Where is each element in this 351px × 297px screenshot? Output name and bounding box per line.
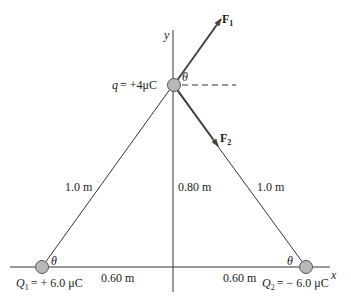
y-axis-label: y bbox=[163, 28, 170, 42]
angle-theta-left: θ bbox=[51, 254, 57, 268]
left-hypotenuse bbox=[42, 85, 173, 267]
force-f2-label: F2 bbox=[220, 131, 231, 147]
charge-q bbox=[168, 79, 181, 92]
force-f2-arrow bbox=[176, 88, 218, 146]
angle-theta-right: θ bbox=[287, 254, 293, 268]
force-f1-label: F1 bbox=[222, 12, 233, 28]
distance-height: 0.80 m bbox=[178, 180, 212, 194]
charge-q2 bbox=[300, 261, 313, 274]
charge-q1-label: Q1= + 6.0 μC bbox=[16, 276, 83, 292]
distance-right-base: 0.60 m bbox=[223, 271, 257, 285]
coulomb-force-diagram: x y F1 F2 q= +4μC Q1= + 6.0 μC Q2= − 6.0… bbox=[0, 0, 351, 297]
charge-q2-label: Q2= − 6.0 μC bbox=[262, 276, 329, 292]
charge-q1 bbox=[36, 261, 49, 274]
distance-right-hypotenuse: 1.0 m bbox=[257, 180, 285, 194]
distance-left-hypotenuse: 1.0 m bbox=[65, 180, 93, 194]
angle-theta-top: θ bbox=[182, 70, 188, 84]
distance-left-base: 0.60 m bbox=[101, 271, 135, 285]
charge-q-label: q= +4μC bbox=[112, 78, 157, 92]
x-axis-label: x bbox=[330, 268, 337, 282]
